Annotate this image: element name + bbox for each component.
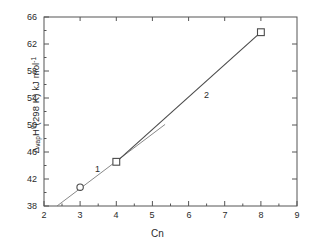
y-axis-title-units-sup: -1 <box>30 57 37 63</box>
chart-figure: 38 42 46 50 54 58 62 66 2 3 4 5 6 7 8 9 … <box>0 0 315 249</box>
y-axis-title-delta: Δ <box>30 147 41 153</box>
xtick-label-8: 8 <box>253 211 269 220</box>
xtick-label-5: 5 <box>144 211 160 220</box>
y-axis-ticks <box>44 17 49 206</box>
data-marker-square-cn8 <box>258 29 265 36</box>
ytick-label-38: 38 <box>15 202 37 211</box>
y-axis-title-sub-vap: vap <box>34 136 41 147</box>
data-marker-circle-cn3 <box>77 184 83 190</box>
fit-line-1 <box>57 124 165 206</box>
y-axis-title-wrap: ΔvapH0(298 K) kJ mol-1 <box>25 10 41 200</box>
xtick-label-6: 6 <box>181 211 197 220</box>
y-axis-ticks-right <box>292 44 297 179</box>
axes-frame <box>44 17 297 206</box>
data-marker-square-cn4 <box>113 158 120 165</box>
xtick-label-4: 4 <box>108 211 124 220</box>
xtick-label-3: 3 <box>72 211 88 220</box>
xtick-label-7: 7 <box>217 211 233 220</box>
y-axis-title-h: H <box>30 129 41 136</box>
x-axis-title: Cn <box>0 228 315 239</box>
y-axis-title-paren: (298 K) <box>30 94 41 126</box>
xtick-label-9: 9 <box>289 211 305 220</box>
y-axis-title-units: kJ mol <box>30 63 41 91</box>
y-axis-title: ΔvapH0(298 K) kJ mol-1 <box>30 57 41 154</box>
series-annotation-2: 2 <box>204 91 209 100</box>
xtick-label-2: 2 <box>36 211 52 220</box>
x-axis-ticks <box>44 201 297 206</box>
series-annotation-1: 1 <box>95 165 100 174</box>
y-axis-title-space <box>30 91 41 94</box>
x-axis-ticks-top <box>80 17 261 21</box>
y-axis-title-sup-zero: 0 <box>30 125 37 129</box>
fit-line-2 <box>116 32 261 162</box>
plot-border <box>44 17 297 206</box>
